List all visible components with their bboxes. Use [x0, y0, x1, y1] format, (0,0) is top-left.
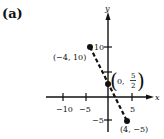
- point-marker: [124, 118, 130, 124]
- point-marker: [87, 44, 93, 50]
- point-label-fraction: ( 0, 5 2 ): [110, 69, 145, 93]
- fraction-prefix: 0,: [117, 77, 125, 86]
- x-axis-label: x: [155, 93, 160, 102]
- y-tick-label: 10: [94, 43, 104, 52]
- point-label: (4, −5): [120, 125, 148, 134]
- y-axis-arrow-icon: [106, 12, 111, 20]
- y-tick-label: −5: [92, 116, 104, 125]
- x-tick-label: −10: [56, 105, 73, 114]
- fraction-denominator: 2: [131, 82, 135, 90]
- close-paren: ): [137, 69, 145, 93]
- y-axis-label: y: [104, 4, 110, 13]
- fraction-numerator: 5: [131, 72, 135, 80]
- point-label: (−4, 10): [53, 53, 86, 62]
- coordinate-plot: x y −10 −5 5 10 −5 (−4, 10) (4, −5) ( 0,…: [0, 0, 164, 139]
- x-tick-label: −5: [79, 105, 91, 114]
- x-tick-label: 5: [130, 105, 135, 114]
- x-axis-arrow-icon: [146, 95, 154, 100]
